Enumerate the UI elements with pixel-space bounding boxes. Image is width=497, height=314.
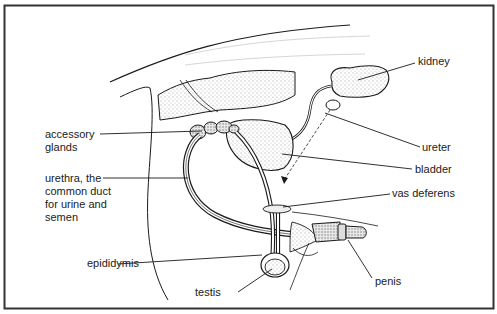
label-ureter: ureter [422, 141, 451, 154]
anatomy-diagram [0, 0, 497, 314]
intestine [158, 70, 295, 120]
label-accessory-glands: accessory glands [45, 128, 95, 154]
label-vas-deferens: vas deferens [392, 187, 455, 200]
label-bladder: bladder [415, 163, 452, 176]
small-ovoid [326, 100, 340, 110]
label-epididymis: epididymis [87, 257, 139, 270]
label-kidney: kidney [418, 55, 450, 68]
penis [312, 222, 340, 242]
testis [265, 259, 285, 275]
label-urethra: urethra, the common duct for urine and s… [45, 172, 111, 224]
label-testis: testis [195, 286, 221, 299]
label-penis: penis [375, 275, 401, 288]
kidney [331, 66, 389, 98]
ureter [290, 86, 331, 140]
